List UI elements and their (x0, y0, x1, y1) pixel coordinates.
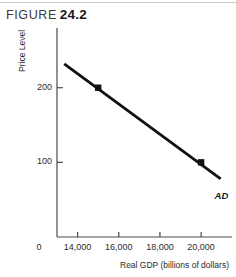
x-tick-label-20000: 20,000 (178, 243, 224, 252)
y-tick-marks (57, 88, 63, 163)
chart-canvas (0, 0, 236, 277)
y-tick-label-100: 100 (22, 157, 52, 166)
figure-panel: FIGURE24.2 Price Level 10020014,00016,00… (0, 0, 236, 277)
ad-point-1 (198, 159, 204, 165)
ad-point-0 (95, 85, 101, 91)
ad-curve (64, 64, 220, 179)
ad-curve-label: AD (215, 191, 229, 201)
x-origin-label: 0 (33, 243, 45, 252)
y-axis-title: Price Level (18, 30, 27, 72)
x-axis-title: Real GDP (billions of dollars) (120, 261, 229, 270)
x-tick-label-18000: 18,000 (137, 243, 183, 252)
y-tick-label-200: 200 (22, 83, 52, 92)
ad-curve-group (64, 64, 220, 179)
x-tick-marks (78, 232, 202, 237)
x-tick-label-16000: 16,000 (96, 243, 142, 252)
x-tick-label-14000: 14,000 (55, 243, 101, 252)
